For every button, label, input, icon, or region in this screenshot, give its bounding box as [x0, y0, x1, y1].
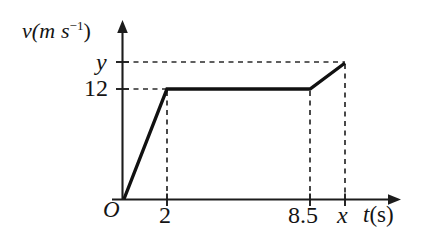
x-axis-label: t(s): [363, 203, 394, 226]
x-axis: [112, 194, 401, 205]
x-tick-label-x: x: [337, 203, 348, 227]
y-axis-arrowhead: [117, 20, 128, 33]
y-tick-label-12: 12: [84, 76, 108, 100]
origin-label: O: [103, 198, 120, 221]
velocity-time-figure: v(m s−1) y 12 O 2 8.5 x t(s): [0, 0, 423, 236]
y-axis: [117, 20, 128, 200]
y-axis-label: v(m s−1): [22, 20, 91, 42]
y-axis-label-exponent: −1: [70, 18, 84, 33]
y-axis-label-close: ): [84, 18, 91, 43]
velocity-curve: [124, 63, 345, 199]
y-axis-label-symbol: v(m s: [22, 18, 70, 43]
x-tick-label-2: 2: [159, 203, 171, 227]
y-tick-label-upper: y: [96, 50, 107, 74]
guide-lines: [124, 62, 345, 198]
x-tick-label-8point5: 8.5: [288, 203, 318, 227]
x-axis-label-unit: (s): [369, 202, 393, 227]
